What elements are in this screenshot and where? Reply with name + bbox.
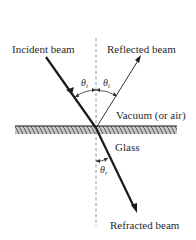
reflected-angle-arc — [96, 88, 117, 96]
glass-label: Glass — [115, 141, 139, 153]
incident-angle-label: θi — [81, 77, 88, 90]
refracted-beam-label: Refracted beam — [110, 219, 180, 231]
refraction-diagram: θi θi θr Incident beam Reflected beam Va… — [0, 0, 196, 240]
vacuum-label: Vacuum (or air) — [116, 109, 186, 122]
refracted-angle-arc — [96, 158, 108, 163]
reflected-beam-label: Reflected beam — [107, 43, 176, 55]
incident-beam-arrow — [46, 57, 96, 128]
reflected-angle-label: θi — [103, 77, 110, 90]
incident-beam-label: Incident beam — [12, 43, 75, 55]
refracted-angle-label: θr — [100, 164, 108, 177]
